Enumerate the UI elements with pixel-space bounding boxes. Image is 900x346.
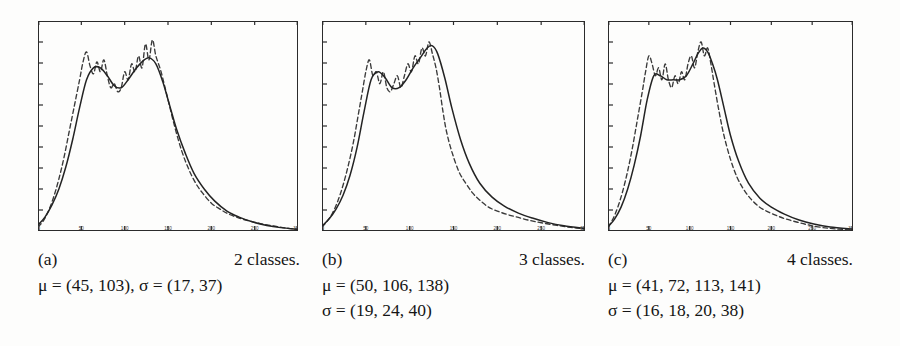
caption-a: (a) 2 classes. μ = (45, 103), σ = (17, 3…: [38, 247, 300, 298]
panel-label-a: (a): [38, 247, 57, 272]
caption-b: (b) 3 classes. μ = (50, 106, 138) σ = (1…: [322, 247, 585, 323]
panel-mu-c: μ = (41, 72, 113, 141): [608, 273, 853, 298]
panel-sigma-c: σ = (16, 18, 20, 38): [608, 298, 853, 323]
panel-mu-a: μ = (45, 103), σ = (17, 37): [38, 273, 300, 298]
panel-classes-a: 2 classes.: [234, 247, 300, 272]
plot-frame-c: [608, 21, 853, 231]
figure-container: 050100150200250300 (a) 2 classes. μ = (4…: [0, 0, 900, 346]
panel-stats-a: μ = (45, 103), σ = (17, 37): [38, 273, 300, 298]
panel-mu-b: μ = (50, 106, 138): [322, 273, 585, 298]
panel-label-b: (b): [322, 247, 342, 272]
panel-sigma-b: σ = (19, 24, 40): [322, 298, 585, 323]
panel-classes-b: 3 classes.: [519, 247, 585, 272]
plot-frame-a: [38, 21, 298, 231]
plot-frame-b: [322, 21, 585, 231]
panel-stats-c: μ = (41, 72, 113, 141) σ = (16, 18, 20, …: [608, 273, 853, 323]
panel-stats-b: μ = (50, 106, 138) σ = (19, 24, 40): [322, 273, 585, 323]
panel-label-c: (c): [608, 247, 627, 272]
caption-c: (c) 4 classes. μ = (41, 72, 113, 141) σ …: [608, 247, 853, 323]
panel-classes-c: 4 classes.: [787, 247, 853, 272]
